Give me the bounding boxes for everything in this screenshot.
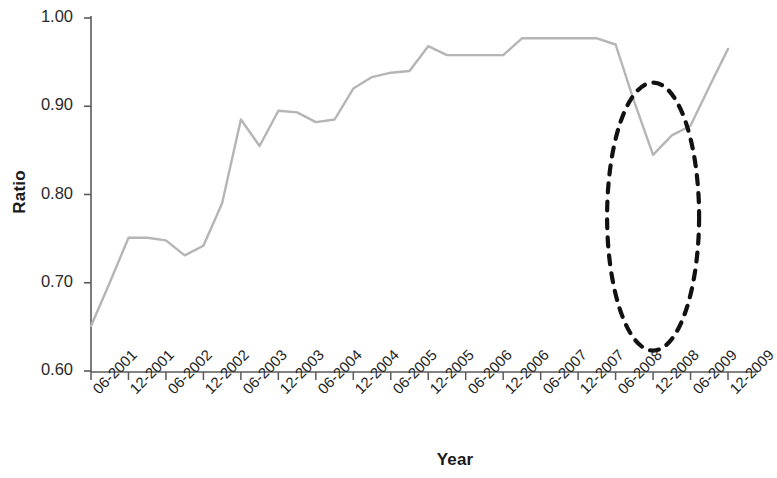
y-tick-label: 0.70 xyxy=(13,272,73,291)
x-axis-label: Year xyxy=(437,450,474,469)
y-tick-label: 0.60 xyxy=(13,360,73,379)
y-tick-label: 0.80 xyxy=(13,184,73,203)
ratio-series-line xyxy=(91,38,728,326)
y-tick-label: 1.00 xyxy=(13,7,73,26)
y-tick-marks xyxy=(84,18,91,371)
y-tick-label: 0.90 xyxy=(13,95,73,114)
x-axis-label-container: Year xyxy=(0,450,770,470)
highlight-ellipse xyxy=(607,83,699,351)
